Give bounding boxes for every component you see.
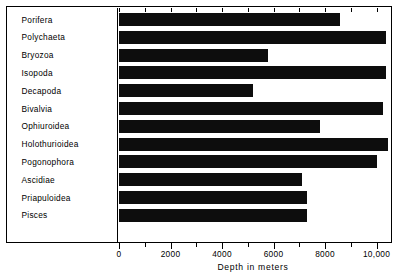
x-tick-top	[145, 8, 146, 13]
x-tick-top	[248, 8, 249, 13]
x-tick-top	[222, 8, 223, 13]
x-tick	[377, 243, 378, 249]
x-tick-top	[119, 8, 120, 13]
category-label: Ophiuroidea	[22, 122, 70, 130]
x-tick-top	[325, 8, 326, 13]
x-tick-label: 4000	[212, 249, 232, 259]
x-tick-top	[299, 8, 300, 13]
category-label: Isopoda	[22, 69, 53, 77]
category-label: Pogonophora	[22, 158, 75, 166]
x-tick-top	[274, 8, 275, 13]
x-tick-label: 8000	[315, 249, 335, 259]
x-tick-top	[351, 8, 352, 13]
x-tick	[119, 243, 120, 249]
x-tick	[248, 243, 249, 247]
x-axis-title: Depth in meters	[0, 262, 406, 272]
x-tick-label: 6000	[264, 249, 284, 259]
category-label: Porifera	[22, 16, 53, 24]
bar-decapoda	[119, 84, 253, 97]
category-label: Polychaeta	[22, 33, 66, 41]
x-tick	[299, 243, 300, 247]
bar-polychaeta	[119, 31, 386, 44]
bar-bryozoa	[119, 49, 268, 62]
x-axis-title-text: Depth in meters	[217, 262, 288, 272]
x-tick-label: 10,000	[363, 249, 390, 259]
category-label: Ascidiae	[22, 176, 55, 184]
category-label: Bivalvia	[22, 105, 53, 113]
category-label: Priapuloidea	[22, 194, 71, 202]
bar-holothurioidea	[119, 138, 388, 151]
bar-bivalvia	[119, 102, 383, 115]
category-label: Bryozoa	[22, 51, 54, 59]
bar-ophiuroidea	[119, 120, 320, 133]
category-label: Holothurioidea	[22, 140, 79, 148]
x-tick	[325, 243, 326, 249]
x-tick	[274, 243, 275, 249]
x-tick-top	[196, 8, 197, 13]
bar-porifera	[119, 13, 340, 26]
x-tick-label: 0	[117, 249, 122, 259]
category-label: Pisces	[22, 211, 48, 219]
x-tick	[196, 243, 197, 247]
plot-area	[119, 8, 391, 242]
bar-priapuloidea	[119, 191, 307, 204]
x-tick-top	[377, 8, 378, 13]
category-label: Decapoda	[22, 87, 62, 95]
x-tick	[171, 243, 172, 249]
bar-pogonophora	[119, 155, 377, 168]
x-tick	[145, 243, 146, 247]
x-tick	[222, 243, 223, 249]
bar-isopoda	[119, 66, 386, 79]
depth-distribution-bar-chart: PoriferaPolychaetaBryozoaIsopodaDecapoda…	[0, 0, 406, 277]
bar-pisces	[119, 209, 307, 222]
x-tick	[351, 243, 352, 247]
category-label-panel: PoriferaPolychaetaBryozoaIsopodaDecapoda…	[8, 8, 118, 242]
x-tick-top	[171, 8, 172, 13]
bar-ascidiae	[119, 173, 302, 186]
x-tick-label: 2000	[161, 249, 181, 259]
